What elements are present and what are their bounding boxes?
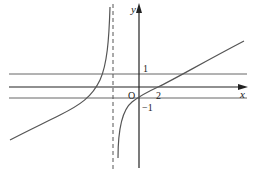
tick-label-y-minus-1: −1 xyxy=(142,102,153,113)
y-axis-arrow-icon xyxy=(136,3,142,13)
tick-label-x-2: 2 xyxy=(156,90,161,101)
origin-label: O xyxy=(128,90,135,101)
function-graph: y x O 1 2 −1 xyxy=(0,0,254,175)
y-axis-label: y xyxy=(130,3,136,15)
curve-right-branch xyxy=(118,41,244,158)
tick-label-y-1: 1 xyxy=(143,63,148,74)
x-axis-label: x xyxy=(239,88,245,100)
